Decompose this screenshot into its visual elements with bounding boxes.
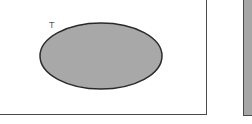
set-t-ellipse bbox=[40, 23, 162, 89]
venn-diagram bbox=[0, 0, 252, 124]
set-t-label: T bbox=[49, 20, 55, 30]
